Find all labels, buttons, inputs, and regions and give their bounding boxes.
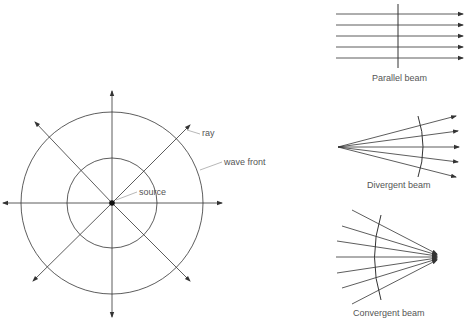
source-dot: [109, 200, 115, 206]
convergent-beam-diagram: [336, 210, 437, 304]
ray-label: ray: [202, 128, 215, 138]
convergent-wave-front: [375, 215, 382, 300]
divergent-beam-diagram: [338, 116, 459, 177]
parallel-beam-diagram: [336, 4, 463, 68]
wave-diagram: ray wave front source Parallel beam Dive…: [0, 0, 474, 323]
parallel-beam-caption: Parallel beam: [372, 73, 427, 83]
divergent-beam-caption: Divergent beam: [367, 180, 431, 190]
convergent-beam-caption: Convergent beam: [353, 308, 425, 318]
point-source-diagram: [3, 91, 222, 317]
wave-front-label: wave front: [223, 157, 266, 167]
ray-down-left: [33, 203, 112, 281]
source-label: source: [139, 187, 166, 197]
ray-down-right: [112, 203, 190, 281]
ray-up-left: [35, 122, 112, 203]
